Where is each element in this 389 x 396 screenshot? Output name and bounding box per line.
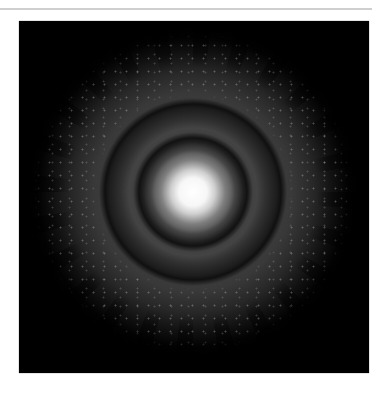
bright-central-disk <box>19 21 369 373</box>
top-divider-line <box>0 8 372 10</box>
diffraction-image <box>19 21 369 373</box>
